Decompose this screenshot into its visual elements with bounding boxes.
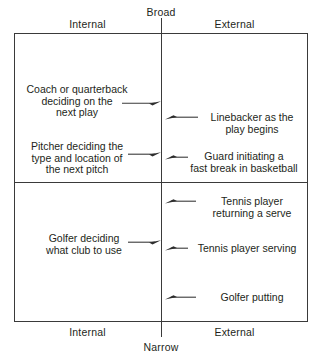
leader-arrow-left-golfer-putting	[164, 293, 196, 303]
item-tennis-returning: Tennis player returning a serve	[196, 196, 308, 219]
axis-label-external-bottom: External	[161, 326, 308, 338]
item-label: Pitcher deciding the type and location o…	[14, 141, 140, 176]
vertical-divider-line	[161, 18, 162, 337]
item-golfer-putting: Golfer putting	[196, 292, 308, 304]
item-label: Guard initiating a fast break in basketb…	[180, 151, 308, 174]
item-guard-fast-break: Guard initiating a fast break in basketb…	[180, 151, 308, 174]
item-golfer-club: Golfer deciding what club to use	[24, 233, 144, 256]
item-label: Tennis player returning a serve	[196, 196, 308, 219]
leader-arrow-right-coach	[122, 99, 162, 109]
item-label: Golfer deciding what club to use	[24, 233, 144, 256]
item-label: Golfer putting	[196, 292, 308, 304]
leader-arrow-left-tennis-returning	[164, 197, 196, 207]
leader-arrow-right-pitcher	[128, 150, 162, 160]
item-label: Linebacker as the play begins	[196, 112, 308, 135]
item-linebacker: Linebacker as the play begins	[196, 112, 308, 135]
item-label: Tennis player serving	[186, 243, 308, 255]
diagram-canvas: Broad Narrow Internal External Internal …	[0, 0, 322, 361]
leader-arrow-left-guard	[164, 153, 188, 163]
leader-arrow-right-golfer-club	[128, 238, 162, 248]
item-coach-quarterback: Coach or quarterback deciding on the nex…	[18, 84, 136, 119]
axis-label-internal-top: Internal	[14, 18, 161, 30]
leader-arrow-left-linebacker	[164, 113, 198, 123]
axis-label-broad: Broad	[0, 6, 322, 18]
item-pitcher: Pitcher deciding the type and location o…	[14, 141, 140, 176]
axis-label-internal-bottom: Internal	[14, 326, 161, 338]
item-tennis-serving: Tennis player serving	[186, 243, 308, 255]
axis-label-narrow: Narrow	[0, 341, 322, 353]
item-label: Coach or quarterback deciding on the nex…	[18, 84, 136, 119]
axis-label-external-top: External	[161, 18, 308, 30]
leader-arrow-left-tennis-serving	[164, 244, 188, 254]
